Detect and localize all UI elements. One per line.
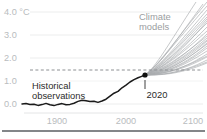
y-tick-3: 3.0: [4, 30, 17, 40]
chart-canvas: 4.0 °C 3.0 2.0 1.0 0.0 1900 2000 2100 Hi…: [0, 0, 207, 139]
climate-projection-chart: 4.0 °C 3.0 2.0 1.0 0.0 1900 2000 2100 Hi…: [0, 0, 207, 139]
historical-observations-annotation: Historical observations: [32, 80, 85, 101]
y-tick-4: 4.0 °C: [4, 7, 30, 17]
historical-annotation-line2: observations: [32, 90, 85, 101]
present-point-marker: [142, 72, 147, 77]
y-tick-2: 2.0: [4, 53, 17, 63]
x-tick-2000: 2000: [116, 116, 136, 126]
climate-models-annotation-line2: models: [139, 21, 170, 32]
climate-models-annotation: Climate models: [139, 11, 171, 32]
present-year-annotation: 2020: [147, 89, 168, 100]
y-axis-tick-labels: 4.0 °C 3.0 2.0 1.0 0.0: [4, 7, 30, 109]
y-tick-0: 0.0: [4, 99, 17, 109]
x-tick-1900: 1900: [47, 116, 67, 126]
x-tick-2100: 2100: [183, 116, 203, 126]
y-tick-1: 1.0: [4, 76, 17, 86]
x-axis-tick-labels: 1900 2000 2100: [47, 116, 203, 126]
